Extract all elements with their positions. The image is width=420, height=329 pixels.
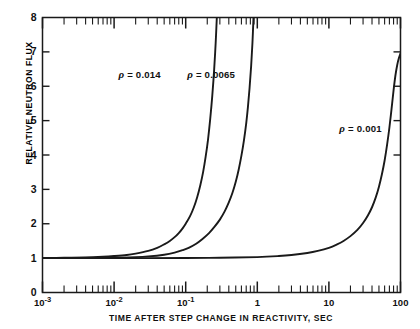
x-tick-exponent: -3: [44, 294, 51, 303]
x-tick-exponent: -2: [116, 294, 123, 303]
x-tick-label: 10-3: [23, 297, 63, 308]
figure-container: 012345678 10-310-210-1110100 ρ = 0.014ρ …: [0, 0, 420, 329]
x-tick-mantissa: 100: [393, 297, 409, 308]
rho-value-text: = 0.001: [345, 123, 382, 134]
x-tick-label: 10-2: [94, 297, 134, 308]
x-tick-mantissa: 10: [177, 297, 188, 308]
curve-rho-0.0065: [43, 18, 254, 259]
x-tick-mantissa: 10: [105, 297, 116, 308]
curve-label-rho-0.014: ρ = 0.014: [118, 68, 160, 80]
rho-value-text: = 0.0065: [193, 69, 235, 80]
y-tick-label: 8: [15, 11, 37, 23]
curve-rho-0.014: [43, 18, 217, 259]
plot-frame: [43, 18, 401, 293]
rho-value-text: = 0.014: [124, 69, 161, 80]
x-axis-title: TIME AFTER STEP CHANGE IN REACTIVITY, SE…: [42, 313, 400, 323]
x-tick-mantissa: 1: [255, 297, 260, 308]
x-tick-mantissa: 10: [324, 297, 335, 308]
y-axis-title-wrapper: RELATIVE NEUTRON FLUX: [24, 28, 38, 178]
curve-label-rho-0.0065: ρ = 0.0065: [187, 68, 235, 80]
x-tick-label: 100: [381, 297, 420, 308]
x-tick-exponent: -1: [188, 294, 195, 303]
axis-ticks: [43, 18, 401, 293]
x-tick-mantissa: 10: [34, 297, 45, 308]
x-tick-label: 10-1: [166, 297, 206, 308]
y-tick-label: 1: [15, 252, 37, 264]
data-curves: [43, 18, 401, 259]
curve-label-rho-0.001: ρ = 0.001: [339, 122, 381, 134]
x-tick-label: 1: [237, 297, 277, 308]
y-tick-label: 2: [15, 217, 37, 229]
x-tick-label: 10: [309, 297, 349, 308]
chart-canvas: [0, 0, 420, 329]
curve-rho-0.001: [43, 54, 401, 259]
y-tick-label: 3: [15, 183, 37, 195]
y-axis-title: RELATIVE NEUTRON FLUX: [24, 28, 34, 178]
